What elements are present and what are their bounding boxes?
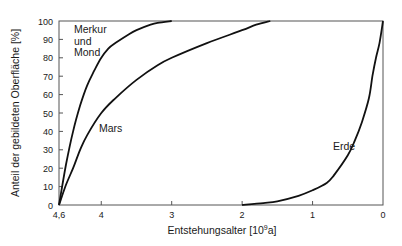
y-tick-label: 70 [43,72,53,82]
y-tick-label: 30 [43,145,53,155]
x-tick-label: 1 [310,210,315,220]
y-tick-label: 100 [38,17,53,27]
mars-label: Mars [99,122,122,134]
y-tick-label: 40 [43,127,53,137]
y-axis-label: Anteil der gebildeten Oberfläche [%] [9,29,21,197]
x-tick-label: 3 [169,210,174,220]
x-tick-label: 2 [240,210,245,220]
x-axis-label-main: Entstehungsalter [10 [168,224,264,236]
merkur-mond-label: MerkurundMond [74,23,107,58]
x-tick-label: 4 [99,210,104,220]
x-axis-label: Entstehungsalter [109a] [168,224,277,236]
y-tick-label: 60 [43,90,53,100]
x-axis: 4,643210 [53,201,386,220]
y-tick-label: 0 [48,201,53,211]
y-tick-label: 80 [43,53,53,63]
chart: 0102030405060708090100 4,643210 Merkurun… [0,0,402,246]
erde-curve [242,21,383,205]
y-tick-label: 90 [43,35,53,45]
y-tick-label: 50 [43,109,53,119]
y-tick-label: 10 [43,182,53,192]
x-axis-label-tail: a] [268,224,277,236]
y-tick-label: 20 [43,164,53,174]
series-group [59,21,383,205]
x-tick-label: 0 [380,210,385,220]
erde-label: Erde [333,140,355,152]
x-tick-label: 4,6 [53,210,66,220]
